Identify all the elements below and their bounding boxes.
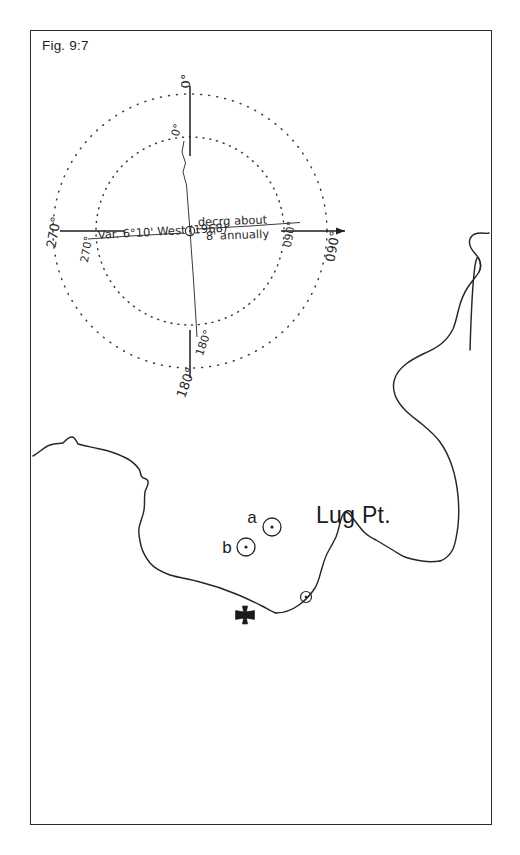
figure-border bbox=[30, 30, 492, 825]
figure-label: Fig. 9:7 bbox=[42, 38, 89, 53]
figure-root: Fig. 9:7 0° 180° 090° bbox=[0, 0, 520, 855]
